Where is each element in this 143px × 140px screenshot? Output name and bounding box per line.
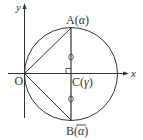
complex-plane-diagram: y x O A(α) C(γ) B(α) bbox=[0, 0, 143, 140]
right-angle-marker-icon bbox=[66, 69, 71, 74]
point-B-label: B(α) bbox=[66, 124, 88, 138]
x-axis-label: x bbox=[130, 67, 136, 79]
point-O-label: O bbox=[15, 74, 24, 88]
segment-OB bbox=[25, 74, 72, 121]
segment-OA bbox=[25, 28, 72, 74]
x-axis-arrow-icon bbox=[123, 72, 129, 76]
point-A-label: A(α) bbox=[66, 13, 89, 27]
point-C-label: C(γ) bbox=[72, 75, 93, 89]
y-axis: y bbox=[15, 1, 27, 118]
y-axis-arrow-icon bbox=[23, 3, 27, 9]
y-axis-label: y bbox=[15, 1, 21, 13]
